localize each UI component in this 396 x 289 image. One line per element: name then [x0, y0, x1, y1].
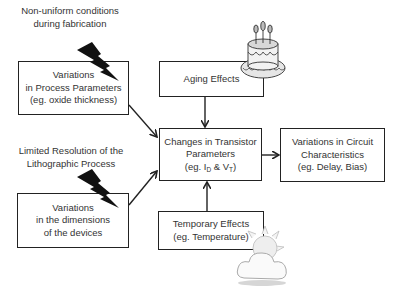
sun-cloud-icon — [237, 226, 286, 286]
birthday-cake-icon — [241, 22, 285, 79]
lightning-bolt-icon — [77, 42, 119, 81]
decorations — [0, 0, 396, 289]
lightning-bolt-icon — [77, 169, 119, 208]
